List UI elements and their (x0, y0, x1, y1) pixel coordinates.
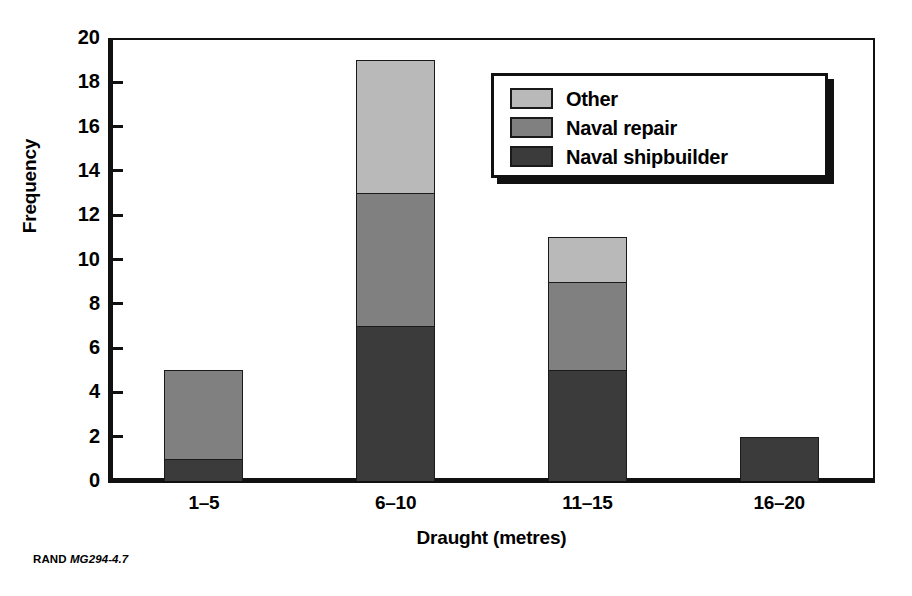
bar-segment (164, 370, 243, 459)
chart-figure: Frequency 02468101214161820 1–56–1011–15… (0, 0, 912, 596)
bar-segment (548, 282, 627, 371)
y-axis-tick-label: 10 (40, 249, 100, 269)
x-axis-tick-label: 11–15 (517, 492, 657, 514)
legend-item: Other (510, 84, 825, 113)
bar-stack (740, 437, 819, 481)
bar-segment (164, 459, 243, 481)
y-axis-tick-label: 16 (40, 116, 100, 136)
y-axis-tick (108, 347, 123, 350)
bar-segment (740, 437, 819, 481)
y-axis-tick (108, 302, 123, 305)
legend-item: Naval shipbuilder (510, 142, 825, 171)
bar-stack (356, 60, 435, 481)
x-axis-title: Draught (metres) (108, 527, 875, 549)
bar-stack (548, 237, 627, 481)
y-axis-tick-label: 12 (40, 204, 100, 224)
legend-label: Naval shipbuilder (566, 147, 728, 167)
legend-label: Other (566, 89, 618, 109)
figure-footer: RAND MG294-4.7 (33, 553, 128, 565)
bar-segment (548, 370, 627, 481)
x-axis-tick-label: 1–5 (134, 492, 274, 514)
chart-legend: OtherNaval repairNaval shipbuilder (491, 73, 828, 178)
bar-segment (356, 193, 435, 326)
y-axis-tick (108, 258, 123, 261)
y-axis-tick-label: 0 (40, 470, 100, 490)
y-axis-tick-label: 2 (40, 426, 100, 446)
footer-source: RAND (33, 553, 67, 565)
legend-item: Naval repair (510, 113, 825, 142)
x-axis-tick-labels: 1–56–1011–1516–20 (108, 492, 875, 522)
y-axis-tick (108, 125, 123, 128)
footer-figure-id: MG294-4.7 (70, 553, 128, 565)
y-axis-tick-label: 20 (40, 27, 100, 47)
y-axis-tick-label: 18 (40, 71, 100, 91)
y-axis-tick-labels: 02468101214161820 (34, 0, 100, 596)
y-axis-tick (108, 435, 123, 438)
y-axis-tick (108, 81, 123, 84)
bar-segment (356, 326, 435, 481)
bar-segment (356, 60, 435, 193)
y-axis-tick (108, 391, 123, 394)
y-axis-tick (108, 214, 123, 217)
y-axis-tick-label: 6 (40, 337, 100, 357)
legend-swatch (510, 117, 553, 138)
bar-segment (548, 237, 627, 281)
legend-swatch (510, 88, 553, 109)
y-axis-tick (108, 169, 123, 172)
y-axis-tick-label: 4 (40, 381, 100, 401)
bar-stack (164, 370, 243, 481)
y-axis-tick-label: 14 (40, 160, 100, 180)
x-axis-tick-label: 6–10 (326, 492, 466, 514)
legend-swatch (510, 146, 553, 167)
y-axis-tick-label: 8 (40, 293, 100, 313)
legend-label: Naval repair (566, 118, 677, 138)
x-axis-tick-label: 16–20 (709, 492, 849, 514)
